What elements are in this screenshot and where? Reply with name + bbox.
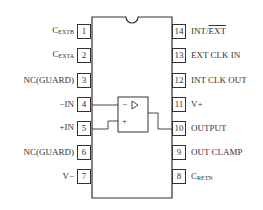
pin-7-number: 7 [77, 169, 91, 184]
pin-2-number: 2 [77, 48, 91, 63]
pin-10-number: 10 [172, 121, 186, 136]
pin-12-label: INT CLK OUT [191, 75, 247, 86]
pin-11-number: 11 [172, 97, 186, 112]
pin-13-label: EXT CLK IN [191, 50, 240, 61]
pin-14-label: INT/EXT [191, 26, 226, 37]
pin-6-number: 6 [77, 145, 91, 160]
pin-4-number: 4 [77, 97, 91, 112]
pin-1-label: CEXTB [52, 25, 74, 38]
pin-6-label: NC(GUARD) [24, 147, 75, 158]
pin-2-label: CEXTA [52, 49, 74, 62]
pin-13-number: 13 [172, 48, 186, 63]
amplifier-minus-sign: − [122, 100, 127, 109]
pin-10-label: OUTPUT [191, 123, 227, 134]
pin-9-number: 9 [172, 145, 186, 160]
pin-7-label: V− [62, 171, 74, 182]
pin-8-label: CRETN [191, 171, 213, 184]
pin-11-label: V+ [191, 99, 203, 110]
pin-8-number: 8 [172, 169, 186, 184]
pin-14-number: 14 [172, 24, 186, 39]
pin-5-label: +IN [59, 122, 74, 133]
pin-3-label: NC(GUARD) [24, 75, 75, 86]
pin-3-number: 3 [77, 73, 91, 88]
pin-1-number: 1 [77, 24, 91, 39]
pin-12-number: 12 [172, 73, 186, 88]
pin-9-label: OUT CLAMP [191, 147, 243, 158]
amplifier-plus-sign: + [122, 117, 127, 126]
pin-4-label: −IN [59, 99, 74, 110]
pin-5-number: 5 [77, 121, 91, 136]
